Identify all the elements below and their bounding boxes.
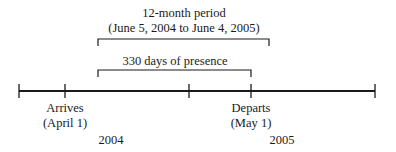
arrives-label: Arrives: [46, 101, 84, 116]
arrives-date: (April 1): [43, 116, 87, 131]
departs-date: (May 1): [231, 116, 272, 131]
year-2004-label: 2004: [99, 133, 124, 148]
presence-label: 330 days of presence: [122, 54, 227, 69]
year-2005-label: 2005: [270, 133, 295, 148]
departs-label: Departs: [232, 101, 271, 116]
period-range: (June 5, 2004 to June 4, 2005): [108, 21, 259, 36]
timeline-axis: [19, 84, 375, 98]
period-title: 12-month period: [142, 6, 226, 21]
presence-bracket: [98, 70, 251, 77]
presence-timeline-diagram: 12-month period (June 5, 2004 to June 4,…: [0, 0, 396, 152]
period-bracket: [98, 39, 269, 46]
